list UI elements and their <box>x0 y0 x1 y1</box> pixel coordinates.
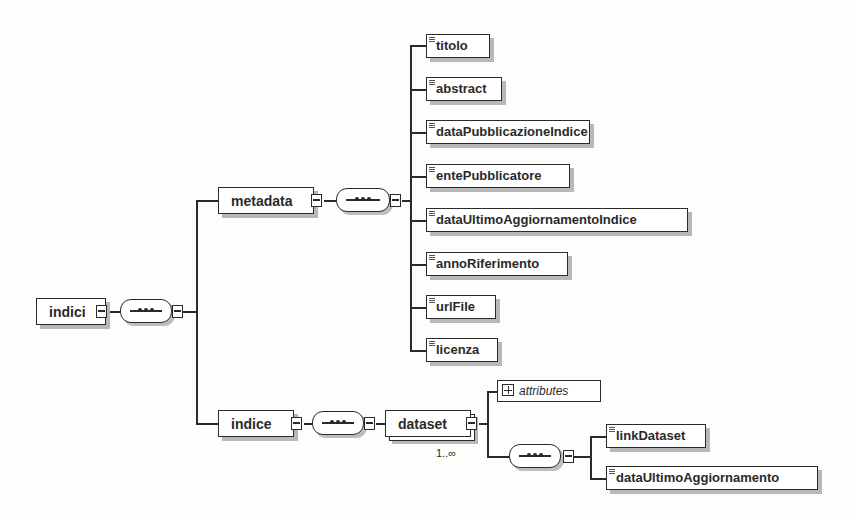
element-urlFile[interactable]: urlFile <box>426 295 496 319</box>
element-label: metadata <box>231 193 292 209</box>
element-indice[interactable]: indice <box>218 410 294 437</box>
element-dataUltimoAggiornamento[interactable]: dataUltimoAggiornamento <box>606 466 818 490</box>
connector <box>304 423 312 425</box>
element-label: dataUltimoAggiornamento <box>616 470 779 485</box>
element-label: dataset <box>398 416 447 432</box>
sequence-compositor[interactable] <box>336 188 390 212</box>
text-lines-icon <box>429 211 435 217</box>
connector <box>182 311 196 313</box>
connector <box>376 423 385 425</box>
connector <box>410 264 426 266</box>
element-dataPubblicazioneIndice[interactable]: dataPubblicazioneIndice <box>426 120 590 144</box>
connector <box>196 423 218 425</box>
attributes-label: attributes <box>519 384 568 398</box>
element-label: indici <box>49 304 86 320</box>
connector <box>410 45 412 351</box>
element-label: dataPubblicazioneIndice <box>436 124 588 139</box>
connector <box>324 200 336 202</box>
collapse-icon[interactable] <box>172 305 183 318</box>
element-label: linkDataset <box>616 428 685 443</box>
connector <box>590 436 606 438</box>
sequence-compositor[interactable] <box>312 411 364 435</box>
collapse-icon[interactable] <box>96 305 107 318</box>
text-lines-icon <box>429 80 435 86</box>
text-lines-icon <box>429 123 435 129</box>
collapse-icon[interactable] <box>311 194 322 207</box>
element-entePubblicatore[interactable]: entePubblicatore <box>426 164 570 188</box>
text-lines-icon <box>429 298 435 304</box>
element-dataset[interactable]: dataset <box>385 410 471 437</box>
element-annoRiferimento[interactable]: annoRiferimento <box>426 252 568 276</box>
connector <box>590 478 606 480</box>
connector <box>196 200 218 202</box>
connector <box>487 391 489 457</box>
element-titolo[interactable]: titolo <box>426 34 490 58</box>
element-label: annoRiferimento <box>436 256 539 271</box>
connector <box>410 89 426 91</box>
connector <box>479 423 487 425</box>
connector <box>410 220 426 222</box>
text-lines-icon <box>429 255 435 261</box>
connector <box>410 307 426 309</box>
plus-box-icon[interactable] <box>502 384 514 396</box>
element-dataUltimoAggiornamentoIndice[interactable]: dataUltimoAggiornamentoIndice <box>426 208 688 232</box>
text-lines-icon <box>609 427 615 433</box>
connector <box>574 456 590 458</box>
connector <box>487 391 497 393</box>
element-linkDataset[interactable]: linkDataset <box>606 424 706 448</box>
collapse-icon[interactable] <box>364 417 375 430</box>
collapse-icon[interactable] <box>291 417 302 430</box>
element-label: entePubblicatore <box>436 168 541 183</box>
element-label: abstract <box>436 81 487 96</box>
connector <box>402 200 410 202</box>
element-label: indice <box>231 416 271 432</box>
text-lines-icon <box>429 341 435 347</box>
text-lines-icon <box>609 469 615 475</box>
element-label: licenza <box>436 342 479 357</box>
element-metadata[interactable]: metadata <box>218 187 314 214</box>
attributes-group[interactable]: attributes <box>497 380 601 402</box>
multiplicity-label: 1..∞ <box>436 447 456 459</box>
connector <box>110 311 120 313</box>
connector <box>410 176 426 178</box>
connector <box>410 350 426 352</box>
connector <box>487 456 509 458</box>
sequence-compositor[interactable] <box>120 299 172 323</box>
element-label: urlFile <box>436 299 475 314</box>
connector <box>196 200 198 424</box>
collapse-icon[interactable] <box>563 450 574 463</box>
element-licenza[interactable]: licenza <box>426 338 498 362</box>
collapse-icon[interactable] <box>390 194 401 207</box>
text-lines-icon <box>429 37 435 43</box>
element-label: dataUltimoAggiornamentoIndice <box>436 212 637 227</box>
connector <box>590 436 592 479</box>
connector <box>410 132 426 134</box>
element-label: titolo <box>436 38 468 53</box>
collapse-icon[interactable] <box>466 417 477 430</box>
element-abstract[interactable]: abstract <box>426 77 502 101</box>
connector <box>410 45 426 47</box>
text-lines-icon <box>429 167 435 173</box>
sequence-compositor[interactable] <box>509 444 561 468</box>
